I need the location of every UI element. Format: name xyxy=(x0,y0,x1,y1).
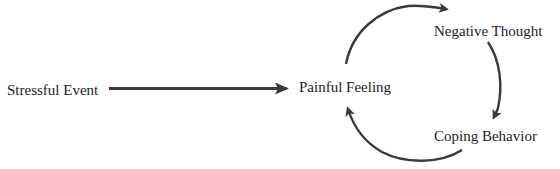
node-painful-feeling: Painful Feeling xyxy=(299,78,391,96)
arrow-negative-to-coping xyxy=(488,42,500,117)
node-negative-thought: Negative Thought xyxy=(434,22,542,40)
node-coping-behavior: Coping Behavior xyxy=(434,127,537,145)
node-stressful-event: Stressful Event xyxy=(7,81,98,99)
arrow-painful-to-negative xyxy=(346,6,446,64)
stress-cycle-diagram: Stressful Event Painful Feeling Negative… xyxy=(0,0,560,169)
